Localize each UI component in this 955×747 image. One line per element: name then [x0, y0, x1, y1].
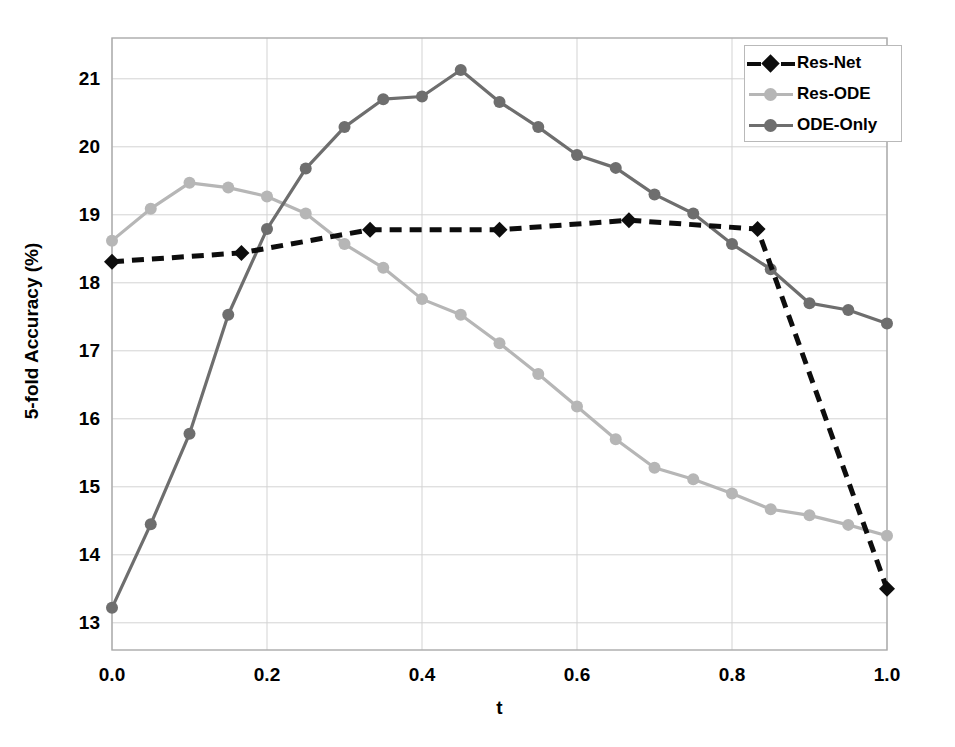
legend-label-res-net: Res-Net: [797, 53, 861, 73]
legend-marker-shape: [764, 88, 777, 101]
legend-marker-diamond-icon: [745, 51, 797, 75]
legend-marker-shape: [761, 54, 779, 72]
chart-legend: Res-Net Res-ODE ODE-Only: [744, 45, 902, 142]
legend-item-ode-only[interactable]: ODE-Only: [745, 111, 903, 139]
legend-item-res-ode[interactable]: Res-ODE: [745, 80, 903, 108]
legend-marker-circle-dark-icon: [745, 113, 797, 137]
x-tick-label: 0.4: [382, 664, 462, 686]
x-tick-label: 0.8: [692, 664, 772, 686]
legend-marker-circle-light-icon: [745, 82, 797, 106]
legend-marker-shape: [764, 119, 777, 132]
legend-label-res-ode: Res-ODE: [797, 84, 871, 104]
x-tick-label: 0.0: [72, 664, 152, 686]
x-tick-label: 1.0: [847, 664, 927, 686]
x-tick-label: 0.2: [227, 664, 307, 686]
chart-figure: 131415161718192021 0.00.20.40.60.81.0 5-…: [0, 0, 955, 747]
y-axis-title: 5-fold Accuracy (%): [21, 181, 43, 481]
legend-label-ode-only: ODE-Only: [797, 115, 877, 135]
legend-item-res-net[interactable]: Res-Net: [745, 49, 903, 77]
x-axis-title: t: [112, 697, 887, 719]
x-tick-label: 0.6: [537, 664, 617, 686]
legend-line-dash: [781, 62, 795, 66]
legend-line-dash: [747, 62, 761, 66]
